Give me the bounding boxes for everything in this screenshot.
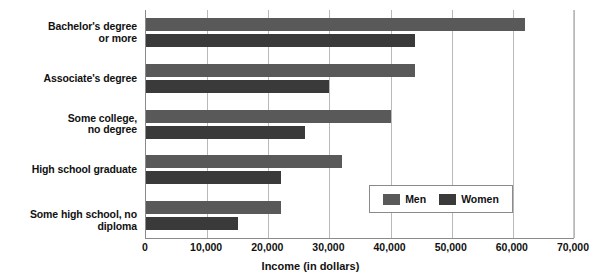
category-label: Bachelor's degreeor more xyxy=(0,21,137,44)
bar-women-group-0 xyxy=(146,34,415,47)
x-axis-title: Income (in dollars) xyxy=(0,260,597,272)
bar-men-group-4 xyxy=(146,201,281,214)
plot-frame-right-edge xyxy=(573,10,574,238)
legend-label-men: Men xyxy=(405,193,426,205)
category-label: High school graduate xyxy=(0,164,137,176)
legend-swatch-women xyxy=(439,194,456,205)
bar-women-group-3 xyxy=(146,171,281,184)
legend-entry-women: Women xyxy=(439,193,499,205)
category-axis: Bachelor's degreeor moreAssociate's degr… xyxy=(0,10,141,238)
bar-men-group-0 xyxy=(146,18,525,31)
category-label: Associate's degree xyxy=(0,73,137,85)
x-tick-label: 60,000 xyxy=(496,241,528,253)
x-tick-label: 20,000 xyxy=(251,241,283,253)
bar-women-group-2 xyxy=(146,126,305,139)
chart-legend: Men Women xyxy=(369,185,513,213)
bar-men-group-1 xyxy=(146,64,415,77)
category-label-line: Associate's degree xyxy=(0,73,137,85)
gridline-70000 xyxy=(574,10,575,238)
x-tick-label: 0 xyxy=(142,241,148,253)
income-by-education-bar-chart: Bachelor's degreeor moreAssociate's degr… xyxy=(0,0,597,280)
x-tick-label: 40,000 xyxy=(374,241,406,253)
x-tick-label: 70,000 xyxy=(557,241,589,253)
category-label: Some college,no degree xyxy=(0,113,137,136)
category-label: Some high school, no diploma xyxy=(0,209,137,232)
legend-entry-men: Men xyxy=(383,193,426,205)
category-label-line: High school graduate xyxy=(0,164,137,176)
x-tick-label: 50,000 xyxy=(435,241,467,253)
category-label-line: or more xyxy=(0,33,137,45)
bar-men-group-3 xyxy=(146,155,342,168)
bar-women-group-4 xyxy=(146,217,238,230)
category-label-line: no degree xyxy=(0,124,137,136)
x-tick-label: 30,000 xyxy=(312,241,344,253)
bar-men-group-2 xyxy=(146,110,391,123)
x-tick-label: 10,000 xyxy=(190,241,222,253)
legend-label-women: Women xyxy=(461,193,499,205)
category-label-line: Some high school, no diploma xyxy=(0,209,137,232)
bar-women-group-1 xyxy=(146,80,329,93)
legend-swatch-men xyxy=(383,194,400,205)
